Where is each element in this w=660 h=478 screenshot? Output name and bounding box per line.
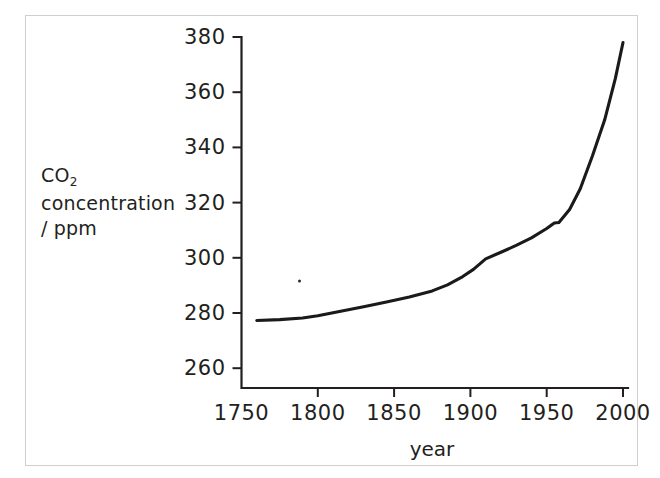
x-axis-title: year [410,437,455,461]
x-tick-label: 1850 [366,401,421,425]
y-tick-label: 260 [184,356,226,380]
x-tick-label: 1900 [443,401,498,425]
y-tick-label: 360 [184,80,226,104]
x-tick-label: 1750 [214,401,269,425]
x-axis-ticks: 175018001850190019502000 [214,388,651,425]
x-tick-label: 1950 [519,401,574,425]
y-tick-label: 380 [184,25,226,49]
y-axis-ticks: 260280300320340360380 [184,25,242,380]
x-tick-label: 2000 [595,401,650,425]
y-tick-label: 300 [184,246,226,270]
scan-artifact-speck [298,279,301,282]
chart-axes [242,37,629,388]
co2-line-chart: 260280300320340360380 175018001850190019… [0,0,660,478]
x-tick-label: 1800 [290,401,345,425]
co2-trend-line [257,43,623,321]
annotation-group [298,279,301,282]
data-series-group [257,43,623,321]
figure-page: CO2 concentration / ppm 2602803003203403… [0,0,660,478]
y-tick-label: 320 [184,191,226,215]
y-tick-label: 280 [184,301,226,325]
axis-lines [242,37,629,388]
y-tick-label: 340 [184,135,226,159]
